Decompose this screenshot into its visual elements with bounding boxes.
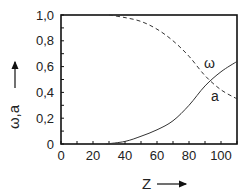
plot-frame — [61, 15, 237, 144]
x-tick-label: 40 — [118, 148, 132, 163]
x-axis-label: Z — [142, 175, 151, 192]
x-tick-label: 80 — [182, 148, 196, 163]
y-axis-label: ω,a — [5, 104, 22, 129]
y-tick-label: 0,8 — [36, 33, 54, 48]
x-tick-label: 20 — [86, 148, 100, 163]
omega-curve — [109, 15, 237, 99]
y-tick-label: 0 — [47, 137, 54, 152]
y-axis-ticks: 00,20,40,60,81,0 — [36, 8, 64, 152]
x-tick-label: 0 — [57, 148, 64, 163]
y-tick-label: 0,4 — [36, 85, 54, 100]
x-tick-label: 100 — [210, 148, 232, 163]
y-tick-label: 0,6 — [36, 59, 54, 74]
chart: 020406080100 00,20,40,60,81,0 ω a Z ω,a — [0, 0, 246, 195]
y-tick-label: 0,2 — [36, 111, 54, 126]
x-tick-label: 60 — [150, 148, 164, 163]
y-tick-label: 1,0 — [36, 8, 54, 23]
omega-curve-label: ω — [204, 55, 215, 71]
a-curve-label: a — [211, 88, 219, 104]
